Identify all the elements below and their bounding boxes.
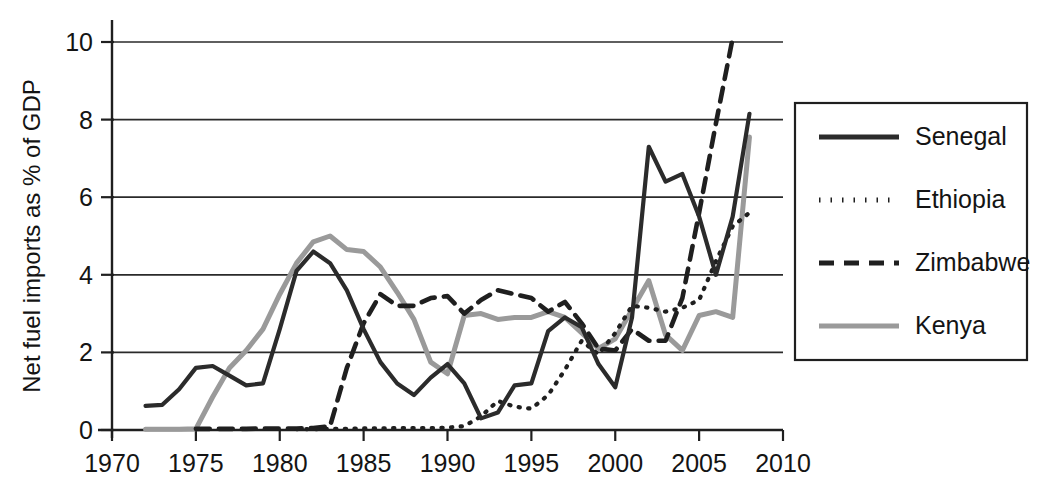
y-tick-label: 10 (65, 28, 93, 56)
chart-figure: 0246810 19701975198019851990199520002005… (0, 0, 1038, 502)
legend-label-zimbabwe: Zimbabwe (915, 248, 1030, 276)
y-axis-title-text: Net fuel imports as % of GDP (18, 79, 45, 392)
legend-label-senegal: Senegal (915, 122, 1007, 150)
legend-label-ethiopia: Ethiopia (915, 185, 1005, 213)
y-tick-label: 2 (79, 338, 93, 366)
x-tick-label: 2000 (587, 449, 643, 477)
x-tick-label: 1970 (84, 449, 140, 477)
x-tick-label: 1975 (168, 449, 224, 477)
y-axis-title: Net fuel imports as % of GDP (18, 79, 45, 392)
x-tick-label: 1980 (252, 449, 308, 477)
y-tick-label: 6 (79, 183, 93, 211)
x-tick-label: 1985 (336, 449, 392, 477)
x-tick-label: 2010 (755, 449, 811, 477)
x-tick-label: 1990 (420, 449, 476, 477)
chart-legend: SenegalEthiopiaZimbabweKenya (795, 103, 1030, 360)
x-tick-label: 2005 (671, 449, 727, 477)
legend-label-kenya: Kenya (915, 311, 986, 339)
line-chart: 0246810 19701975198019851990199520002005… (0, 0, 1038, 502)
x-tick-label: 1995 (504, 449, 560, 477)
y-tick-label: 4 (79, 261, 93, 289)
y-tick-label: 8 (79, 106, 93, 134)
y-tick-label: 0 (79, 416, 93, 444)
